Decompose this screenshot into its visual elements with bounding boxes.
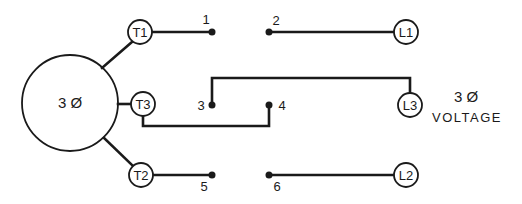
contact-2-label: 2 [272,13,279,28]
contact-4-dot [266,102,273,109]
wire-contact3-l3 [212,78,410,105]
contact-2-dot [266,29,273,36]
contact-3-dot [209,102,216,109]
line-l3-label: L3 [403,98,417,113]
line-l3: L3 [398,93,422,117]
terminal-t2-label: T2 [133,168,148,183]
terminal-t3-label: T3 [135,97,150,112]
terminal-t3: T3 [131,92,155,116]
contact-6-dot [266,172,273,179]
contact-3-label: 3 [197,98,204,113]
supply-voltage-label: VOLTAGE [432,110,502,125]
contact-5-label: 5 [200,179,207,194]
line-l2: L2 [394,163,418,187]
line-l1-label: L1 [399,25,413,40]
line-l2-label: L2 [399,168,413,183]
contact-4-label: 4 [278,98,285,113]
contact-6-label: 6 [273,179,280,194]
lead-t1 [102,41,133,68]
terminal-t2: T2 [129,163,153,187]
wire-t3-contact4 [143,105,269,126]
terminal-t1-label: T1 [132,25,147,40]
contact-1-label: 1 [202,12,209,27]
contact-5-dot [209,172,216,179]
terminal-t1: T1 [128,20,152,44]
motor-wiring-diagram: 3 Ø T1 T3 T2 L1 L3 L2 1 2 3 4 5 [0,0,522,204]
motor-label: 3 Ø [58,94,83,111]
contact-1-dot [209,29,216,36]
lead-t2 [104,138,133,166]
line-l1: L1 [394,20,418,44]
supply-phase-label: 3 Ø [454,88,479,105]
